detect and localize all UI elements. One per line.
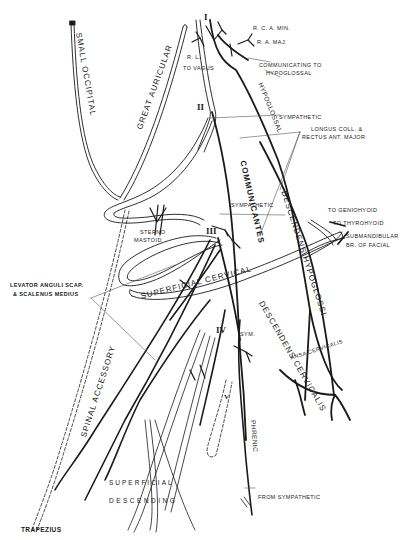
label-submandibular-1: SUBMANDIBULAR xyxy=(346,234,399,240)
root-trunk-outline xyxy=(196,20,216,152)
label-submandibular-2: BR. OF FACIAL xyxy=(346,243,390,249)
label-longus-coll-1: LONGUS COLL. & xyxy=(311,127,362,133)
cervical-plexus-diagram xyxy=(0,0,410,540)
label-hypoglossal-comm: HYPOGLOSSAL xyxy=(266,71,312,77)
great-auricular-nerve xyxy=(120,25,187,201)
descending-thick-nerves xyxy=(55,240,252,515)
plexus-loops xyxy=(104,118,222,286)
root-label-iv: IV xyxy=(216,326,226,335)
label-phrenic: PHRENIC xyxy=(250,420,259,452)
label-sympathetic-iii: SYMPATHETIC xyxy=(231,203,274,209)
label-from-sympathetic: FROM SYMPATHETIC xyxy=(258,495,320,501)
root-v-nerve xyxy=(207,380,232,457)
label-communicating-to: COMMUNICATING TO xyxy=(259,63,322,69)
thick-nerves xyxy=(210,20,350,440)
label-rl: R. L. xyxy=(187,55,201,61)
from-sympathetic-stub xyxy=(241,497,250,507)
root-label-ii: II xyxy=(197,103,204,112)
label-mastoid: MASTOID xyxy=(134,238,162,244)
label-sympathetic-ii: SYMPATHETIC xyxy=(279,115,322,121)
label-to-geniohyoid: TO GENIOHYOID xyxy=(328,208,377,214)
root-label-v: V xyxy=(224,394,229,401)
leader-lines xyxy=(91,58,300,488)
label-sterno: STERNO xyxy=(140,230,165,236)
label-to-vagus: TO VAGUS xyxy=(183,66,214,72)
label-longus-coll-2: RECTUS ANT. MAJOR xyxy=(302,135,365,141)
root-label-i: I xyxy=(204,13,208,22)
label-sym: SYM. xyxy=(240,332,255,338)
label-levator-2: & SCALENUS MEDIUS xyxy=(13,292,78,298)
label-ra-maj: R. A. MAJ. xyxy=(257,40,287,46)
label-trapezius: TRAPEZIUS xyxy=(21,527,61,534)
label-rca-min: R. C. A. MIN. xyxy=(253,26,290,32)
label-levator-1: LEVATOR ANGULI SCAP. xyxy=(10,283,83,289)
label-to-thyrohyoid: TO THYROHYOID xyxy=(333,221,384,227)
label-superficial: SUPERFICIAL xyxy=(109,480,174,487)
root-label-iii: III xyxy=(206,227,217,236)
label-descending: DESCENDING xyxy=(109,498,177,505)
